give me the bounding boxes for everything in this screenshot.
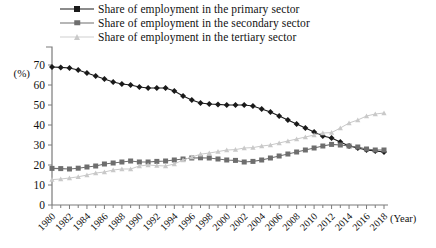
data-point — [364, 147, 369, 152]
y-tick-label-70: 70 — [34, 59, 46, 71]
data-point — [180, 93, 186, 99]
x-tick-label-2014: 2014 — [333, 211, 355, 233]
data-point — [93, 164, 98, 169]
data-point — [268, 156, 273, 161]
data-point — [67, 167, 72, 172]
data-point — [277, 154, 282, 159]
x-tick-label-1986: 1986 — [88, 211, 110, 233]
data-point — [303, 148, 308, 153]
data-point — [145, 85, 151, 91]
y-axis-unit-label: (%) — [14, 67, 31, 80]
series-line — [52, 67, 384, 152]
y-tick-label-20: 20 — [34, 159, 46, 171]
data-point — [119, 81, 125, 87]
x-tick-label-2018: 2018 — [367, 211, 389, 233]
x-tick-label-1996: 1996 — [175, 211, 197, 233]
data-point — [84, 70, 90, 76]
data-point — [189, 97, 195, 103]
data-point — [250, 103, 256, 109]
data-point — [347, 144, 352, 149]
x-tick-label-2002: 2002 — [228, 211, 250, 233]
y-tick-label-60: 60 — [34, 79, 46, 91]
data-point — [207, 156, 212, 161]
data-point — [58, 64, 64, 70]
data-point — [382, 148, 387, 153]
x-tick-label-1994: 1994 — [158, 211, 180, 233]
data-point — [102, 162, 107, 167]
data-point — [224, 102, 230, 108]
plot-area: 010203040506070 198019821984198619881990… — [0, 0, 436, 248]
x-tick-label-1988: 1988 — [105, 211, 127, 233]
x-tick-label-2010: 2010 — [298, 211, 320, 233]
y-tick-label-30: 30 — [34, 139, 46, 151]
data-point — [241, 102, 247, 108]
data-point — [171, 88, 177, 94]
data-point — [111, 161, 116, 166]
x-tick-label-1992: 1992 — [140, 211, 162, 233]
data-point — [233, 158, 238, 163]
data-point — [294, 150, 299, 155]
employment-share-line-chart: Share of employment in the primary secto… — [0, 0, 436, 248]
data-point — [154, 85, 160, 91]
data-point — [66, 65, 72, 71]
data-point — [267, 109, 273, 115]
data-point — [84, 165, 89, 170]
data-point — [76, 166, 81, 171]
x-axis: 1980198219841986198819901992199419961998… — [35, 205, 389, 233]
data-point — [119, 160, 124, 165]
data-point — [75, 67, 81, 73]
data-point — [232, 102, 238, 108]
data-point — [276, 113, 282, 119]
x-tick-label-2006: 2006 — [263, 211, 285, 233]
data-point — [259, 106, 265, 112]
plot-svg: 010203040506070 198019821984198619881990… — [0, 0, 436, 248]
data-point — [250, 159, 255, 164]
data-point — [50, 166, 55, 171]
x-axis-title: (Year) — [390, 213, 417, 225]
y-tick-label-50: 50 — [34, 99, 46, 111]
data-point — [285, 117, 291, 123]
data-point — [338, 125, 343, 130]
x-tick-label-1990: 1990 — [123, 211, 145, 233]
y-axis: 010203040506070 — [34, 47, 53, 211]
data-point — [285, 152, 290, 157]
data-point — [58, 166, 63, 171]
data-point — [242, 160, 247, 165]
data-point — [216, 157, 221, 162]
data-point — [329, 142, 334, 147]
data-point — [93, 73, 99, 79]
data-point — [373, 148, 378, 153]
x-tick-label-2012: 2012 — [315, 211, 337, 233]
data-point — [206, 101, 212, 107]
data-point — [198, 100, 204, 106]
data-point — [110, 79, 116, 85]
data-point — [338, 143, 343, 148]
x-tick-label-2008: 2008 — [280, 211, 302, 233]
data-point — [312, 146, 317, 151]
data-point — [136, 84, 142, 90]
x-tick-label-2004: 2004 — [245, 211, 267, 233]
data-point — [302, 125, 308, 131]
data-point — [259, 158, 264, 163]
x-tick-label-1980: 1980 — [35, 211, 57, 233]
data-point — [224, 158, 229, 163]
data-point — [101, 76, 107, 82]
data-point — [163, 159, 168, 164]
x-tick-label-2016: 2016 — [350, 211, 372, 233]
data-point — [355, 145, 360, 150]
data-point — [294, 121, 300, 127]
series-tertiary — [49, 110, 386, 181]
x-tick-label-2000: 2000 — [210, 211, 232, 233]
data-series-group — [49, 64, 387, 182]
data-point — [329, 135, 335, 141]
data-point — [320, 144, 325, 149]
x-tick-label-1982: 1982 — [53, 211, 75, 233]
y-tick-label-0: 0 — [39, 199, 45, 211]
data-point — [128, 82, 134, 88]
series-primary — [49, 64, 387, 155]
series-line — [52, 113, 384, 180]
y-tick-label-40: 40 — [34, 119, 46, 131]
x-tick-label-1984: 1984 — [70, 211, 92, 233]
y-tick-label-10: 10 — [34, 179, 46, 191]
x-tick-label-1998: 1998 — [193, 211, 215, 233]
